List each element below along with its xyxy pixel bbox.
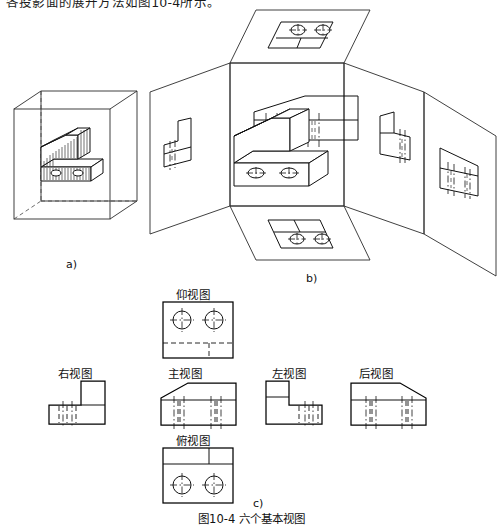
label-right-view: 右视图 bbox=[58, 365, 92, 381]
bottom-view bbox=[162, 301, 234, 359]
right-view bbox=[48, 380, 118, 430]
panel-a-caption: a) bbox=[66, 258, 77, 271]
panel-b-svg bbox=[148, 8, 500, 276]
panel-b-part bbox=[234, 109, 328, 186]
label-bottom-view: 仰视图 bbox=[176, 286, 210, 302]
panel-a-part bbox=[41, 128, 103, 181]
rear-view bbox=[350, 380, 430, 430]
left-view bbox=[265, 380, 335, 430]
panel-a-glass-box bbox=[8, 85, 143, 245]
figure-caption: 图10-4 六个基本视图 bbox=[0, 510, 503, 526]
label-front-view: 主视图 bbox=[168, 365, 202, 381]
label-rear-view: 后视图 bbox=[359, 365, 393, 381]
panel-b-rear-plane-view bbox=[440, 148, 478, 199]
panel-b-unfolded-planes bbox=[148, 8, 500, 276]
front-view bbox=[160, 380, 240, 430]
panel-a-svg bbox=[8, 85, 143, 245]
label-top-view: 俯视图 bbox=[176, 432, 210, 448]
label-left-view: 左视图 bbox=[272, 365, 306, 381]
panel-c-caption: c) bbox=[253, 497, 263, 510]
panel-b-left-wing-view bbox=[164, 118, 191, 170]
panel-b-bottom-plane-view bbox=[268, 220, 333, 248]
panel-b-top-plane-view bbox=[268, 22, 333, 48]
top-view bbox=[162, 447, 234, 504]
panel-b-caption: b) bbox=[306, 272, 317, 285]
panel-b-right-wing-view bbox=[380, 112, 410, 163]
